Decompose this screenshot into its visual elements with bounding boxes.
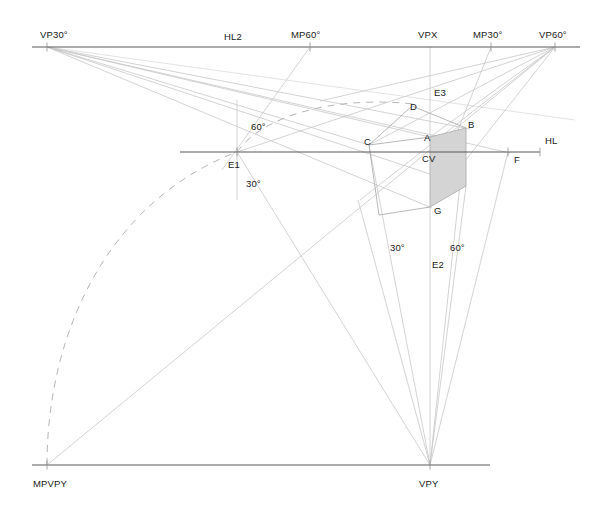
- angle-60-lower-right: 60°: [450, 243, 465, 253]
- line-bf-to-vpy: [430, 186, 466, 465]
- label-e3: E3: [434, 88, 446, 98]
- label-e2: E2: [432, 260, 444, 270]
- cube-shaded-face: [430, 128, 466, 207]
- arc-mpvpy-to-e1: [47, 152, 237, 465]
- edge-c-a: [369, 137, 430, 145]
- label-mpvpy: MPVPY: [33, 479, 67, 489]
- label-vpy: VPY: [419, 479, 438, 489]
- ray-vp30-to-lower: [47, 47, 466, 186]
- cube-shaded-face-group: [430, 128, 466, 207]
- label-a: A: [424, 133, 431, 143]
- ray-vp30-to-c: [47, 47, 369, 145]
- dashed-arcs: [47, 102, 414, 465]
- label-vpx: VPX: [418, 30, 437, 40]
- label-b: B: [468, 120, 475, 130]
- line-c-to-vpy: [369, 145, 430, 465]
- angle-30-lower-mid: 30°: [390, 243, 405, 253]
- label-hl2: HL2: [224, 32, 242, 42]
- label-hl: HL: [545, 136, 557, 146]
- edge-g-left: [379, 207, 430, 215]
- label-g: G: [434, 206, 442, 216]
- angle-30-lower-left: 30°: [246, 179, 261, 189]
- label-vp30: VP30°: [40, 30, 68, 40]
- label-e1: E1: [228, 160, 240, 170]
- line-cg-to-vpy: [358, 200, 430, 465]
- ray-vp60-to-a: [430, 47, 555, 137]
- ray-vp30-to-b: [47, 47, 470, 129]
- label-f: F: [514, 155, 520, 165]
- label-mp30: MP30°: [473, 30, 502, 40]
- label-c: C: [364, 137, 371, 147]
- label-mp60: MP60°: [291, 30, 320, 40]
- line-e1-to-vpy: [237, 152, 430, 465]
- perspective-drawing: [0, 0, 606, 518]
- label-cv: CV: [422, 154, 436, 164]
- angle-60-upper-left: 60°: [251, 122, 266, 132]
- construction-lines: [47, 47, 555, 465]
- label-vp60: VP60°: [539, 30, 567, 40]
- ray-vp60-to-e1: [237, 47, 555, 152]
- diagram-canvas: VP30°HL2MP60°VPXMP30°VP60°E3DBCAHLCVFE1G…: [0, 0, 606, 518]
- label-d: D: [410, 102, 417, 112]
